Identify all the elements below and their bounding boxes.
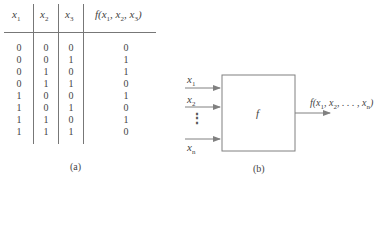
caption-b: (b) — [253, 163, 265, 174]
input-label-x2: x2 — [187, 93, 195, 108]
input-label-xn: xn — [187, 141, 195, 156]
ellipsis-dots: ⋮ — [190, 112, 204, 126]
input-label-x1: x1 — [187, 73, 195, 88]
function-label: f — [256, 107, 259, 119]
output-label: f(x1, x2, . . . , xn) — [310, 97, 373, 111]
